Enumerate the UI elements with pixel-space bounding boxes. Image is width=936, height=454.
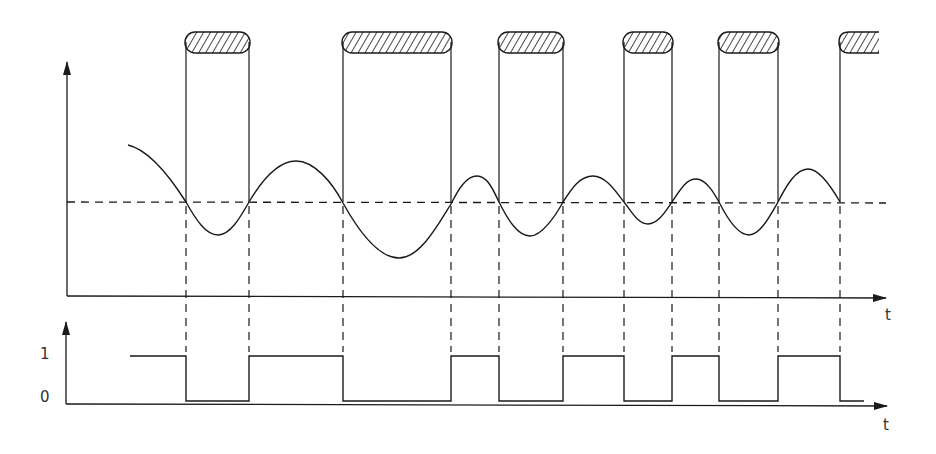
hatched-cap [623, 32, 673, 53]
analog-waveform [128, 145, 840, 258]
pulse [498, 32, 564, 202]
pulse-group [185, 32, 879, 202]
pulse [839, 32, 879, 202]
pulse [718, 32, 779, 202]
threshold-dashed-line [67, 202, 886, 203]
upper-x-axis [67, 296, 886, 298]
timing-diagram [0, 0, 936, 454]
pulse [342, 32, 452, 202]
upper-x-axis-label: t [885, 308, 891, 323]
hatched-cap [498, 32, 564, 53]
hatched-cap [718, 32, 779, 53]
digital-output-signal [130, 356, 864, 401]
hatched-cap [185, 32, 250, 53]
lower-x-axis [66, 404, 887, 406]
y-label-low: 0 [40, 390, 50, 405]
hatched-cap [342, 32, 452, 53]
lower-plot-axes [66, 322, 887, 406]
projection-lines [186, 206, 840, 352]
pulse [623, 32, 673, 202]
y-label-high: 1 [40, 347, 50, 362]
lower-x-axis-label: t [883, 418, 889, 433]
pulse [185, 32, 250, 202]
hatched-cap-cutoff [839, 32, 879, 53]
upper-plot-axes [67, 62, 886, 298]
